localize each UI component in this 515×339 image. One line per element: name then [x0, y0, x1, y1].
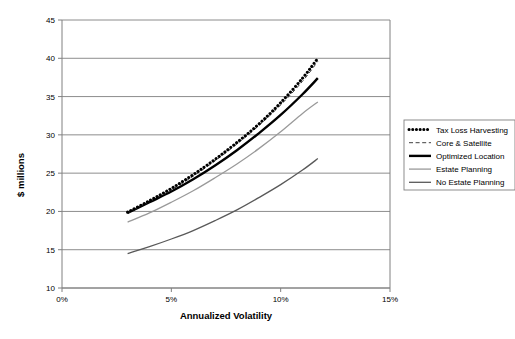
legend-label: Core & Satellite: [436, 139, 492, 148]
y-axis-tick-labels: 1015202530354045: [46, 16, 62, 293]
chart-legend: Tax Loss HarvestingCore & SatelliteOptim…: [404, 120, 515, 190]
y-tick-label: 30: [46, 131, 55, 140]
y-tick-label: 45: [46, 16, 55, 25]
y-tick-label: 40: [46, 54, 55, 63]
series-line: [128, 102, 318, 222]
y-tick-label: 35: [46, 93, 55, 102]
x-axis-title: Annualized Volatility: [180, 310, 273, 321]
x-tick-label: 10%: [273, 295, 289, 304]
legend-label: Optimized Location: [436, 152, 504, 161]
x-tick-label: 0%: [56, 295, 68, 304]
line-chart: 1015202530354045 0%5%10%15% Tax Loss Har…: [0, 0, 515, 339]
x-tick-label: 5%: [166, 295, 178, 304]
legend-label: No Estate Planning: [436, 178, 505, 187]
data-series: [128, 58, 318, 253]
legend-label: Estate Planning: [436, 165, 492, 174]
y-tick-label: 10: [46, 284, 55, 293]
series-line: [128, 61, 318, 213]
x-axis: [62, 20, 390, 288]
chart-container: 1015202530354045 0%5%10%15% Tax Loss Har…: [0, 0, 515, 339]
gridlines: [62, 20, 390, 288]
x-tick-label: 15%: [382, 295, 398, 304]
x-axis-tick-labels: 0%5%10%15%: [56, 288, 398, 304]
y-axis-title: $ millions: [15, 153, 26, 197]
series-line: [128, 78, 318, 213]
y-tick-label: 25: [46, 169, 55, 178]
legend-label: Tax Loss Harvesting: [436, 126, 508, 135]
y-tick-label: 20: [46, 207, 55, 216]
y-tick-label: 15: [46, 246, 55, 255]
